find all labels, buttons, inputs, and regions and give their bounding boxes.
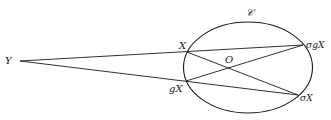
label-point-y: Y xyxy=(5,55,13,66)
label-point-x: X xyxy=(178,40,187,51)
label-point-gx: gX xyxy=(169,83,183,94)
line-segments xyxy=(20,45,303,95)
segment-y-sx xyxy=(20,61,298,95)
geometry-figure: 𝒞 Y X gX σgX σX O xyxy=(0,0,331,120)
label-point-sigma-x: σX xyxy=(300,93,313,103)
label-curve-c: 𝒞 xyxy=(246,7,256,18)
label-point-o: O xyxy=(225,54,233,65)
ellipse-curve-c xyxy=(184,22,313,113)
diagram-canvas: 𝒞 Y X gX σgX σX O xyxy=(0,0,331,120)
label-point-sigma-gx: σgX xyxy=(306,40,325,50)
segment-y-sgx xyxy=(20,45,303,61)
